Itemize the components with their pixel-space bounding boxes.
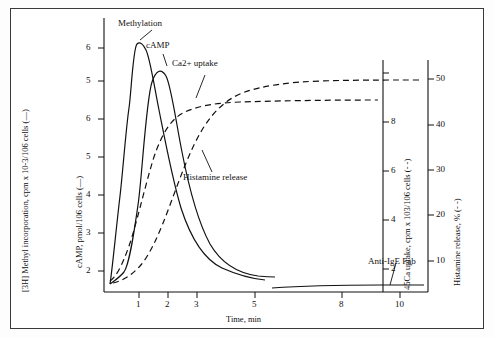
- ytick-rout-20: 20: [436, 209, 445, 219]
- ytick-left-6: 6: [86, 113, 91, 123]
- series-label-methylation: Methylation: [118, 18, 162, 28]
- axis-title-left-outer: [3H] Methyl incorporation, cpm x 10-3/10…: [20, 12, 30, 292]
- curve-methylation: [110, 43, 265, 284]
- figure-root: [3H] Methyl incorporation, cpm x 10-3/10…: [0, 0, 494, 337]
- ytick-left-4: 4: [86, 189, 91, 199]
- xtick-2: 2: [165, 299, 170, 309]
- ytick-rin-4: 4: [391, 214, 396, 224]
- xtick-3: 3: [194, 299, 199, 309]
- right-inner-axis-ticks: [383, 73, 389, 269]
- right-outer-axis-ticks: [428, 79, 434, 261]
- series-label-anti-ige-fab: Anti-IgE Fab: [368, 256, 416, 266]
- axis-title-left-inner: cAMP, pmol/106 cells (—): [74, 48, 84, 268]
- series-label-camp: cAMP: [146, 40, 170, 50]
- xtick-5: 5: [252, 299, 257, 309]
- ytick-rout-50: 50: [436, 73, 445, 83]
- axis-title-right-outer: Histamine release, % (- -): [452, 86, 462, 286]
- ytick-left-2: 2: [86, 265, 91, 275]
- ytick-left-3: 3: [86, 227, 91, 237]
- xtick-8: 8: [339, 299, 344, 309]
- ytick-rin-6: 6: [391, 165, 396, 175]
- ytick-left-5: 5: [86, 151, 91, 161]
- ytick-rin-8: 8: [391, 116, 396, 126]
- ytick-left-inner-5: 5: [86, 75, 91, 85]
- ytick-rout-10: 10: [436, 255, 445, 265]
- xtick-10: 10: [395, 299, 404, 309]
- series-label-histamine: Histamine release: [183, 172, 247, 182]
- left-axis-ticks: [98, 48, 104, 271]
- ytick-rout-30: 30: [436, 164, 445, 174]
- xtick-1: 1: [136, 299, 141, 309]
- annotation-leaders: [140, 30, 396, 285]
- series-label-ca-uptake: Ca2+ uptake: [172, 58, 218, 68]
- curve-ca-uptake: [110, 100, 378, 281]
- x-axis-ticks: [139, 292, 400, 298]
- ytick-left-inner-6: 6: [86, 42, 91, 52]
- ytick-rout-40: 40: [436, 119, 445, 129]
- axis-title-x: Time, min: [226, 314, 261, 324]
